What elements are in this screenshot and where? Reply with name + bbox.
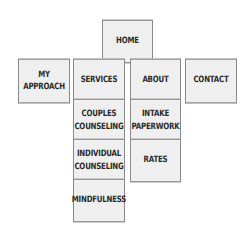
node-rates: RATES (130, 139, 181, 183)
node-about: ABOUT (130, 59, 181, 104)
node-couples-counseling: COUPLES COUNSELING (73, 99, 125, 143)
node-label: CONTACT (193, 75, 228, 87)
node-label: MINDFULNESS (72, 195, 126, 207)
node-label: ABOUT (142, 75, 168, 87)
node-label: SERVICES (81, 75, 118, 87)
node-individual-counseling: INDIVIDUAL COUNSELING (73, 139, 125, 183)
node-label: RATES (144, 155, 168, 167)
node-label: HOME (116, 36, 139, 48)
node-label: MY APPROACH (23, 69, 65, 93)
node-home: HOME (102, 20, 153, 64)
node-intake-paperwork: INTAKE PAPERWORK (130, 99, 181, 143)
node-contact: CONTACT (185, 59, 237, 104)
node-mindfulness: MINDFULNESS (73, 179, 125, 223)
node-label: INDIVIDUAL COUNSELING (74, 149, 123, 173)
node-my-approach: MY APPROACH (18, 59, 70, 104)
node-label: COUPLES COUNSELING (74, 109, 123, 133)
node-services: SERVICES (73, 59, 125, 104)
node-label: INTAKE PAPERWORK (132, 109, 180, 133)
